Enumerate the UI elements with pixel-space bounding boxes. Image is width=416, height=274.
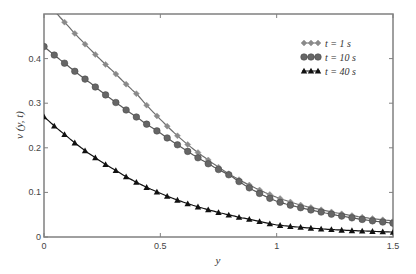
legend-item: t = 10 s [301, 52, 356, 63]
legend: t = 1 st = 10 st = 40 s [301, 38, 356, 77]
y-tick-label: 0.3 [28, 98, 41, 108]
legend-label: t = 1 s [325, 38, 351, 49]
y-tick-label: 0.1 [28, 187, 41, 197]
legend-label: t = 40 s [325, 66, 356, 77]
x-tick-label: 1 [274, 241, 279, 251]
x-axis-label: y [215, 254, 221, 266]
y-tick-label: 0.4 [28, 54, 41, 64]
legend-label: t = 10 s [325, 52, 356, 63]
y-tick-label: 0.2 [28, 143, 41, 153]
x-tick-label: 0 [41, 241, 46, 251]
legend-item: t = 1 s [301, 38, 351, 49]
series-layer [41, 0, 397, 235]
y-tick-label: 0 [36, 232, 41, 242]
y-axis-label: v (y, t) [13, 111, 26, 139]
legend-item: t = 40 s [301, 66, 356, 77]
x-tick-label: 1.5 [387, 241, 400, 251]
series-t-1-s [41, 0, 396, 224]
x-axis: 00.511.5 [41, 14, 399, 251]
x-tick-label: 0.5 [154, 241, 167, 251]
line-chart: 00.511.5 00.10.20.30.4 t = 1 st = 10 st … [0, 0, 416, 274]
